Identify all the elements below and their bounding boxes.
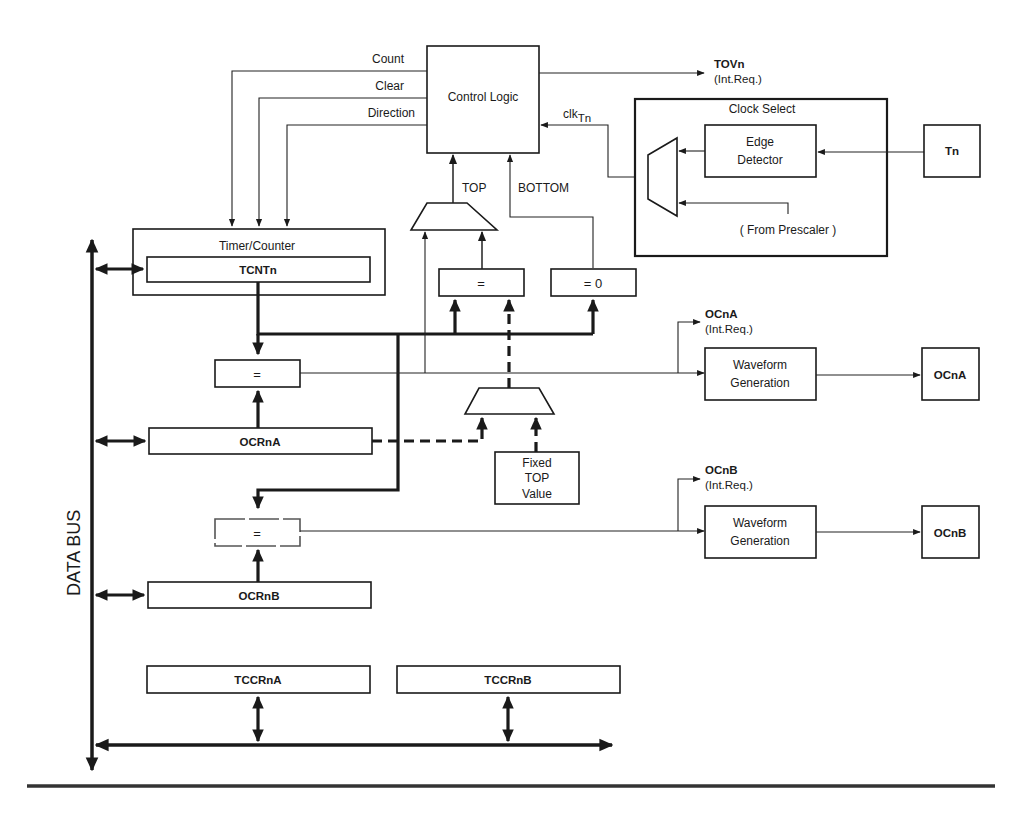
tn-pin-label: Tn — [945, 145, 959, 157]
edge-detector-label-2: Detector — [737, 153, 782, 167]
waveform-generation-a — [705, 348, 816, 400]
zero-compare-label: = 0 — [584, 276, 602, 291]
ocra-label: OCRnA — [240, 436, 281, 448]
count-signal-line — [232, 71, 427, 226]
clock-select-block: Clock Select Edge Detector ( From Presca… — [635, 99, 887, 256]
waveform-b-label-2: Generation — [730, 534, 789, 548]
waveform-generation-b — [705, 506, 816, 558]
clk-label: clkTn — [563, 107, 591, 124]
ocnb-int-label: OCnB — [705, 464, 738, 476]
tccrb-label: TCCRnB — [484, 674, 531, 686]
ocna-intreq-label: (Int.Req.) — [705, 323, 753, 335]
ocna-interrupt-line — [678, 322, 700, 373]
ocrb-label: OCRnB — [239, 590, 280, 602]
direction-signal-line — [287, 125, 427, 226]
ocnb-pin-label: OCnB — [934, 527, 967, 539]
from-prescaler-label: ( From Prescaler ) — [740, 223, 837, 237]
ocra-to-topmux-dashed-line — [372, 418, 482, 441]
control-logic-label: Control Logic — [448, 90, 519, 104]
top-label: TOP — [462, 181, 486, 195]
data-bus-label: DATA BUS — [64, 510, 84, 596]
fixed-top-label-3: Value — [522, 487, 552, 501]
ocnb-interrupt-line — [678, 479, 700, 531]
count-label: Count — [372, 52, 405, 66]
bottom-signal-line — [510, 155, 593, 268]
ocna-pin-label: OCnA — [934, 369, 967, 381]
compare-b-label: = — [253, 526, 261, 541]
bottom-label: BOTTOM — [518, 181, 569, 195]
tovn-label: TOVn — [714, 58, 744, 70]
waveform-a-label-2: Generation — [730, 376, 789, 390]
edge-detector-label-1: Edge — [746, 135, 774, 149]
fixed-top-label-1: Fixed — [522, 456, 551, 470]
compare-a-label: = — [253, 367, 261, 382]
timer-counter-diagram: Control Logic Count Clear Direction TOVn… — [0, 0, 1030, 827]
fixed-top-label-2: TOP — [525, 471, 549, 485]
top-mux — [411, 203, 497, 230]
clock-select-label: Clock Select — [729, 102, 796, 116]
timer-counter-label: Timer/Counter — [219, 239, 295, 253]
top-compare-label: = — [477, 276, 485, 291]
tccra-label: TCCRnA — [234, 674, 281, 686]
ocna-int-label: OCnA — [705, 308, 738, 320]
waveform-a-label-1: Waveform — [733, 358, 787, 372]
direction-label: Direction — [368, 106, 415, 120]
ocnb-intreq-label: (Int.Req.) — [705, 479, 753, 491]
tovn-intreq-label: (Int.Req.) — [714, 73, 762, 85]
tcnt-label: TCNTn — [239, 264, 277, 276]
clk-tn-line — [541, 125, 648, 177]
clear-label: Clear — [375, 79, 404, 93]
control-logic-block: Control Logic — [427, 46, 539, 153]
waveform-b-label-1: Waveform — [733, 516, 787, 530]
ocr-top-select-mux — [465, 388, 554, 414]
